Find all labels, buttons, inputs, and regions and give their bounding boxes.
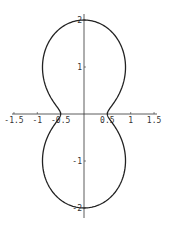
x-tick-label: -0.5 — [51, 116, 70, 125]
x-tick-label: 1.5 — [147, 116, 162, 125]
x-tick-label: 1 — [128, 116, 133, 125]
x-tick-label: -1 — [32, 116, 42, 125]
x-tick-label: -1.5 — [4, 116, 23, 125]
y-tick-label: 1 — [77, 63, 82, 72]
polar-plot: -1.5-1-0.50.511.5 21-1-2 — [0, 0, 169, 231]
y-tick-label: -1 — [72, 157, 82, 166]
